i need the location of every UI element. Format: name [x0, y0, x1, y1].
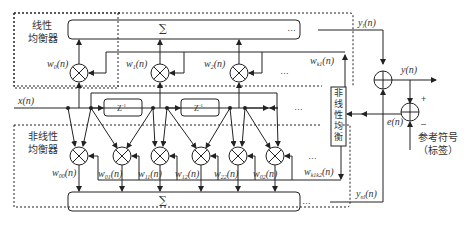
linear-label-line2: 均衡器 — [28, 33, 58, 46]
ellipsis-nonlinear-mult: … — [308, 152, 317, 161]
weight-w22: w22(n) — [214, 169, 238, 180]
minus-sign: – — [421, 120, 426, 129]
ellipsis-linear-mult: … — [280, 67, 289, 76]
reference-line2: （标签） — [418, 145, 458, 158]
weight-w02: w02(n) — [253, 169, 277, 180]
linear-output-label: yl(n) — [358, 18, 376, 29]
volterra-equalizer-diagram: ∑ ∑ 线性 均衡器 非线性 均衡器 w0(n) w1(n) w2(n) wk1… — [0, 0, 470, 225]
nonlinear-equalizer-label: 非线性 均衡器 — [28, 131, 58, 156]
nonlinear-sum-symbol: ∑ — [159, 195, 167, 206]
weight-w00: w00(n) — [52, 168, 76, 179]
adaptation-block-label: 非 线 性 均 衡 — [332, 88, 344, 143]
output-label: y(n) — [401, 65, 417, 75]
ellipsis-delay: … — [294, 103, 303, 112]
plus-sign: + — [421, 95, 426, 104]
weight-w0: w0(n) — [47, 59, 68, 70]
linear-equalizer-label: 线性 均衡器 — [28, 20, 58, 45]
weight-wk1: wk1(n) — [310, 56, 334, 67]
weight-w01: w01(n) — [98, 169, 122, 180]
weight-w12: w12(n) — [175, 169, 199, 180]
error-label: e(n) — [387, 117, 403, 127]
delay-1-label: Z-1 — [117, 103, 126, 113]
input-label: x(n) — [18, 96, 34, 106]
weight-w11: w11(n) — [138, 169, 162, 180]
delay-2-label: Z-1 — [194, 103, 203, 113]
weight-w1: w1(n) — [126, 59, 147, 70]
nonlinear-label-line1: 非线性 — [28, 131, 58, 144]
weight-wk1k2: wk1k2(n) — [304, 167, 334, 178]
reference-line1: 参考符号 — [418, 132, 458, 145]
reference-symbol-label: 参考符号 （标签） — [418, 132, 458, 157]
nonlinear-output-label: ynl(n) — [356, 189, 377, 200]
diagram-lines — [0, 0, 470, 225]
linear-label-line1: 线性 — [28, 20, 58, 33]
weight-w2: w2(n) — [204, 59, 225, 70]
nonlinear-label-line2: 均衡器 — [28, 144, 58, 157]
ellipsis-nonlinear-sum: … — [302, 197, 311, 206]
ellipsis-linear-sum: … — [287, 24, 296, 33]
linear-sum-symbol: ∑ — [159, 23, 167, 34]
